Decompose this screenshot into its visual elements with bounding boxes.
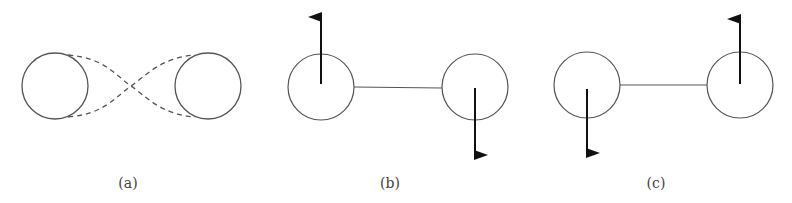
node-circle-left: [22, 53, 88, 119]
dashed-curve-bottom-left-to-top-right: [68, 55, 195, 117]
caption-c: (c): [647, 175, 666, 191]
caption-a: (a): [118, 175, 137, 191]
panel-c: [554, 19, 773, 153]
panel-b: [288, 17, 508, 155]
caption-b: (b): [380, 175, 400, 191]
bond-line: [354, 87, 442, 88]
panel-a: [22, 53, 241, 119]
figure-canvas: [0, 0, 792, 203]
node-circle-right: [175, 53, 241, 119]
